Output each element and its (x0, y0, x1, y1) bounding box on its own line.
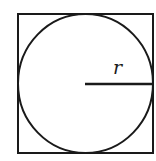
inscribed-circle-diagram: r (0, 0, 156, 161)
radius-label: r (113, 56, 124, 78)
